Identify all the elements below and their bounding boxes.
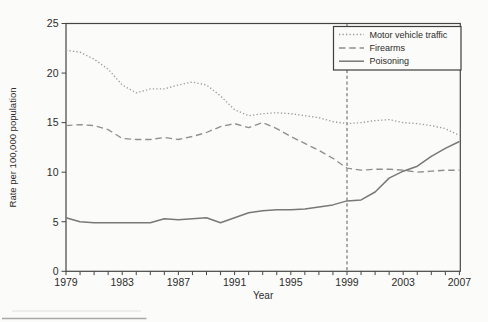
x-axis-tick-label: 1999 — [335, 276, 359, 288]
x-axis-tick-label: 1991 — [223, 276, 247, 288]
legend-label: Firearms — [370, 43, 406, 53]
x-axis-tick-label: 1983 — [111, 276, 135, 288]
series-line-firearms — [66, 123, 459, 173]
line-chart: 0510152025197919831987199119951999200320… — [0, 0, 488, 322]
series-line-poisoning — [66, 142, 459, 223]
scanned-figure-page: 0510152025197919831987199119951999200320… — [0, 0, 488, 322]
x-axis-tick-label: 1995 — [279, 276, 303, 288]
legend-label: Motor vehicle traffic — [370, 30, 448, 40]
x-axis-tick-label: 1987 — [167, 276, 191, 288]
x-axis-title: Year — [253, 290, 274, 301]
legend-label: Poisoning — [370, 56, 410, 66]
x-axis-tick-label: 2007 — [448, 276, 472, 288]
y-axis-title: Rate per 100,000 population — [7, 88, 18, 208]
y-axis-tick-label: 10 — [47, 166, 59, 178]
y-axis-tick-label: 25 — [47, 17, 59, 29]
y-axis-tick-label: 5 — [53, 216, 59, 228]
y-axis-tick-label: 20 — [47, 67, 59, 79]
x-axis-tick-label: 2003 — [392, 276, 416, 288]
x-axis-tick-label: 1979 — [54, 276, 78, 288]
legend: Motor vehicle trafficFirearmsPoisoning — [334, 27, 462, 71]
y-axis-tick-label: 15 — [47, 116, 59, 128]
